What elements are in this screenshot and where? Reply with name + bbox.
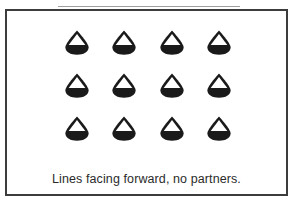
- dancer-facing-forward-icon: [206, 29, 232, 56]
- dancer-facing-forward-icon: [159, 29, 185, 56]
- dancer-facing-forward-icon: [206, 72, 232, 99]
- dancer-facing-forward-icon: [159, 72, 185, 99]
- formation-grid: [53, 29, 243, 142]
- dancer-facing-forward-icon: [111, 29, 137, 56]
- dancer-facing-forward-icon: [111, 115, 137, 142]
- dancer-facing-forward-icon: [64, 29, 90, 56]
- dancer-facing-forward-icon: [159, 115, 185, 142]
- dancer-facing-forward-icon: [64, 115, 90, 142]
- dancer-facing-forward-icon: [111, 72, 137, 99]
- diagram-canvas: Lines facing forward, no partners.: [0, 0, 296, 202]
- diagram-caption: Lines facing forward, no partners.: [7, 171, 286, 187]
- dancer-facing-forward-icon: [206, 115, 232, 142]
- top-rule-divider: [58, 6, 240, 7]
- dancer-facing-forward-icon: [64, 72, 90, 99]
- diagram-frame: Lines facing forward, no partners.: [5, 9, 288, 196]
